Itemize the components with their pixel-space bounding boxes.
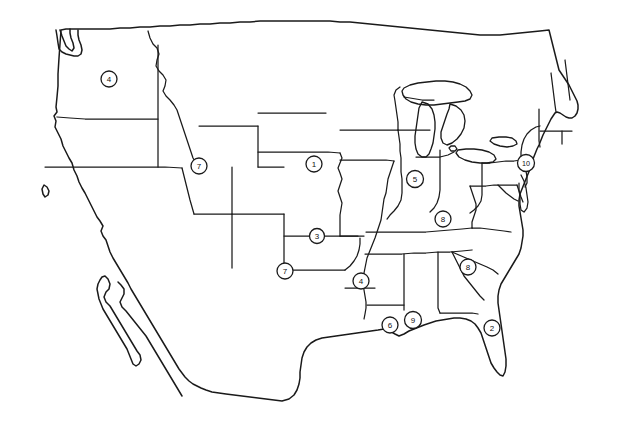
marker-label: 8 — [441, 215, 446, 224]
map-marker-4-washington[interactable]: 4 — [101, 71, 117, 87]
map-marker-6-louisiana-coast[interactable]: 6 — [382, 317, 398, 333]
marker-label: 1 — [312, 160, 317, 169]
map-marker-1-nebraska[interactable]: 1 — [306, 156, 322, 172]
map-marker-2-florida[interactable]: 2 — [484, 320, 500, 336]
marker-label: 6 — [388, 321, 393, 330]
marker-label: 4 — [359, 277, 364, 286]
marker-label: 9 — [411, 316, 416, 325]
map-figure: 47151083748692 — [0, 0, 623, 445]
map-marker-4-louisiana-arkansas[interactable]: 4 — [353, 273, 369, 289]
map-marker-7-texas-new-mexico-corner[interactable]: 7 — [277, 263, 293, 279]
marker-label: 4 — [107, 75, 112, 84]
us-outline-map[interactable]: 47151083748692 — [0, 0, 623, 445]
marker-label: 7 — [197, 162, 202, 171]
map-marker-8-kentucky[interactable]: 8 — [435, 211, 451, 227]
marker-label: 5 — [413, 175, 418, 184]
map-marker-10-new-jersey[interactable]: 10 — [518, 155, 535, 172]
map-marker-8-south-carolina[interactable]: 8 — [460, 259, 476, 275]
map-marker-9-mississippi-coast[interactable]: 9 — [405, 312, 422, 329]
map-marker-3-kansas-oklahoma-border[interactable]: 3 — [310, 229, 325, 244]
marker-label: 3 — [315, 232, 320, 241]
map-background — [0, 0, 623, 445]
marker-label: 2 — [490, 324, 495, 333]
map-marker-5-indiana[interactable]: 5 — [407, 171, 424, 188]
marker-label: 8 — [466, 263, 471, 272]
marker-label: 10 — [522, 159, 530, 168]
map-marker-7-nevada-utah-border[interactable]: 7 — [191, 158, 207, 174]
marker-label: 7 — [283, 267, 288, 276]
